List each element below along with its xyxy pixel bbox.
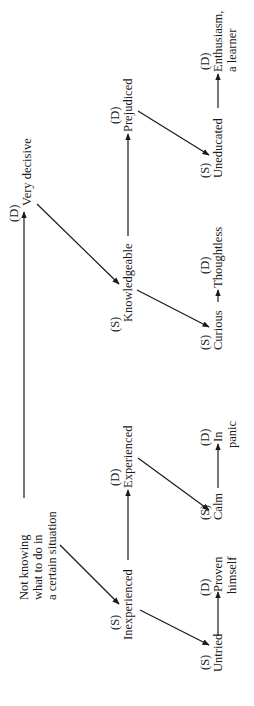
node-in-panic-line1: In (212, 432, 225, 442)
node-very-decisive-label: Very decisive (21, 138, 34, 206)
node-inexperienced-label: Inexperienced (122, 569, 135, 640)
node-thoughtless-label: Thoughtless (212, 227, 225, 288)
edge-experienced-calm (138, 458, 209, 510)
node-experienced-label: Experienced (122, 426, 135, 488)
node-calm-label: Calm (212, 493, 225, 520)
node-untried-label: Untried (212, 634, 225, 672)
node-enthusiasm-line1: Enthusiasm, (212, 11, 225, 72)
node-curious-label: Curious (212, 310, 225, 350)
node-very-decisive-tag: (D) (8, 205, 21, 222)
edge-inexperienced-untried (140, 610, 209, 645)
node-proven-line2: himself (226, 557, 239, 595)
node-uneducated-label: Uneducated (212, 118, 225, 178)
node-knowledgeable-label: Knowledgeable (122, 244, 135, 322)
node-enthusiasm-line2: a learner (226, 29, 239, 72)
node-root-line3: a certain situation (46, 511, 59, 600)
node-prejudiced-label: Prejudiced (122, 79, 135, 132)
edge-prejudiced-uneducated (138, 111, 209, 155)
edge-root-inexperienced (60, 545, 119, 604)
edge-knowledgeable-curious (137, 290, 209, 327)
edge-very-decisive-knowledgeable (37, 204, 119, 284)
node-in-panic-line2: panic (226, 421, 239, 448)
node-root-line1: Not knowing (18, 534, 31, 600)
node-root-line2: what to do in (32, 534, 45, 600)
node-proven-line1: Proven (212, 557, 225, 592)
